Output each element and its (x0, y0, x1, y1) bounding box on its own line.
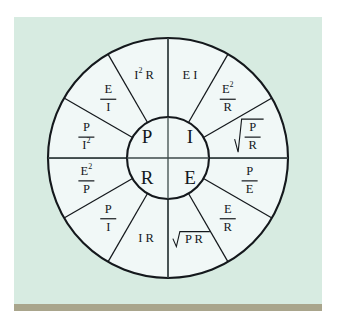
formula-denominator: I (106, 220, 110, 234)
hub-symbol-current: I (187, 126, 193, 147)
ohms-law-wheel-diagram: P I R E E IE2RPRPEERP RI RPIE2PPI2EII2 R (0, 0, 337, 323)
formula-text: P R (185, 232, 204, 246)
formula-denominator: R (224, 100, 233, 114)
hub-symbol-resistance: R (141, 167, 154, 188)
formula-numerator: E (224, 202, 232, 216)
formula-text: I R (138, 231, 154, 245)
formula-numerator: E (104, 82, 112, 96)
formula-denominator: R (248, 138, 257, 152)
formula-denominator: E (246, 182, 254, 196)
formula-text: E I (182, 68, 197, 82)
formula-denominator: R (224, 220, 233, 234)
formula-numerator: P (105, 202, 112, 216)
wheel-svg: P I R E E IE2RPRPEERP RI RPIE2PPI2EII2 R (0, 0, 337, 323)
formula-text: I2 R (134, 66, 154, 82)
formula-numerator: P (246, 164, 253, 178)
formula-numerator: P (249, 120, 256, 134)
figure-page: P I R E E IE2RPRPEERP RI RPIE2PPI2EII2 R (0, 0, 337, 323)
formula-denominator: I (106, 100, 110, 114)
formula-numerator: P (83, 120, 90, 134)
formula-denominator: P (83, 182, 90, 196)
sector-label-0: E I (182, 68, 197, 82)
sector-label-11: I2 R (134, 66, 154, 82)
hub-symbol-power: P (142, 126, 153, 147)
sector-label-6: I R (138, 231, 154, 245)
hub-symbol-voltage: E (184, 167, 196, 188)
